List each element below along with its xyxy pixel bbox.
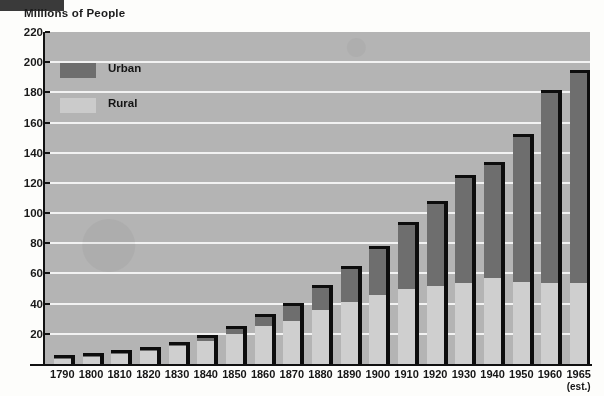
bar-shadow-top bbox=[255, 314, 276, 317]
bar-shadow bbox=[558, 91, 562, 364]
y-axis-tick-mark bbox=[45, 272, 50, 274]
x-axis-tick-label: 1800 bbox=[79, 368, 103, 380]
x-axis-tick-label: 1840 bbox=[194, 368, 218, 380]
bar-shadow-top bbox=[140, 347, 161, 350]
bar-segment-rural bbox=[484, 278, 501, 364]
x-axis-tick-label: 1940 bbox=[480, 368, 504, 380]
bar-group bbox=[427, 204, 444, 364]
x-axis-tick-label: 1900 bbox=[366, 368, 390, 380]
bar-segment-rural bbox=[283, 321, 300, 364]
y-axis-tick-mark bbox=[45, 333, 50, 335]
y-axis-tick-label: 160 bbox=[3, 117, 43, 129]
bar-group bbox=[283, 306, 300, 364]
y-axis-tick-label: 20 bbox=[3, 328, 43, 340]
x-axis-tick-label: 1910 bbox=[394, 368, 418, 380]
bar-shadow-top bbox=[455, 175, 476, 178]
y-axis-tick-mark bbox=[45, 182, 50, 184]
bar-group bbox=[570, 73, 587, 364]
x-axis-tick-label: 1960 bbox=[538, 368, 562, 380]
bar-segment-rural bbox=[455, 283, 472, 364]
y-axis-tick-labels: 22020018016014012010080604020 bbox=[0, 0, 43, 396]
bar-shadow-top bbox=[341, 266, 362, 269]
bar-shadow-top bbox=[484, 162, 505, 165]
plot-area bbox=[45, 32, 590, 364]
y-axis-tick-mark bbox=[45, 31, 50, 33]
bar-segment-urban bbox=[111, 353, 128, 354]
y-axis-tick-mark bbox=[45, 61, 50, 63]
bar-group bbox=[255, 317, 272, 364]
bar-segment-urban bbox=[484, 165, 501, 277]
bar-group bbox=[513, 137, 530, 364]
bar-group bbox=[197, 338, 214, 364]
bar-group bbox=[484, 165, 501, 364]
legend-swatch-urban-icon bbox=[60, 63, 96, 78]
bar-shadow bbox=[214, 336, 218, 364]
bar-shadow bbox=[501, 163, 505, 364]
bar-segment-rural bbox=[169, 346, 186, 364]
bar-segment-rural bbox=[312, 310, 329, 364]
y-axis-tick-mark bbox=[45, 91, 50, 93]
legend-label-rural: Rural bbox=[108, 97, 137, 109]
bar-group bbox=[369, 249, 386, 364]
bar-shadow-top bbox=[83, 353, 104, 356]
bar-shadow-top bbox=[54, 355, 75, 358]
bar-segment-urban bbox=[427, 204, 444, 286]
bar-segment-rural bbox=[513, 282, 530, 364]
x-axis-tick-label: 1965 bbox=[566, 368, 590, 380]
bar-shadow-top bbox=[513, 134, 534, 137]
bar-segment-rural bbox=[541, 283, 558, 364]
bar-shadow-top bbox=[541, 90, 562, 93]
bar-shadow bbox=[386, 247, 390, 364]
bar-group bbox=[226, 329, 243, 364]
x-axis-tick-label: 1890 bbox=[337, 368, 361, 380]
x-axis-tick-labels: 1790180018101820183018401850186018701880… bbox=[0, 368, 604, 396]
x-axis-tick-sublabel: (est.) bbox=[567, 381, 591, 392]
y-axis-tick-label: 120 bbox=[3, 177, 43, 189]
y-axis-tick-mark bbox=[45, 303, 50, 305]
y-axis-tick-mark bbox=[45, 242, 50, 244]
bar-group bbox=[169, 345, 186, 364]
bar-shadow-top bbox=[226, 326, 247, 329]
gridline bbox=[45, 272, 590, 274]
bar-segment-rural bbox=[369, 295, 386, 364]
bar-shadow-top bbox=[570, 70, 590, 73]
y-axis-tick-label: 180 bbox=[3, 86, 43, 98]
bar-shadow bbox=[157, 348, 161, 364]
y-axis-tick-label: 60 bbox=[3, 267, 43, 279]
x-axis-tick-label: 1810 bbox=[107, 368, 131, 380]
x-axis-tick-label: 1950 bbox=[509, 368, 533, 380]
bar-segment-rural bbox=[255, 326, 272, 364]
y-axis-line bbox=[43, 32, 45, 366]
bar-group bbox=[312, 288, 329, 364]
bar-shadow-top bbox=[312, 285, 333, 288]
y-axis-tick-mark bbox=[45, 122, 50, 124]
bar-segment-urban bbox=[226, 329, 243, 334]
x-axis-tick-label: 1860 bbox=[251, 368, 275, 380]
legend-label-urban: Urban bbox=[108, 62, 141, 74]
x-axis-tick-label: 1880 bbox=[308, 368, 332, 380]
bar-group bbox=[541, 93, 558, 364]
bar-shadow-top bbox=[398, 222, 419, 225]
bar-group bbox=[455, 178, 472, 364]
bar-shadow bbox=[415, 223, 419, 364]
bar-shadow-top bbox=[283, 303, 304, 306]
bar-segment-urban bbox=[513, 137, 530, 283]
x-axis-line bbox=[30, 364, 592, 366]
bar-group bbox=[140, 350, 157, 364]
gridline bbox=[45, 182, 590, 184]
bar-segment-urban bbox=[341, 269, 358, 302]
bar-segment-rural bbox=[427, 286, 444, 364]
x-axis-tick-label: 1790 bbox=[50, 368, 74, 380]
bar-segment-urban bbox=[255, 317, 272, 326]
bar-shadow-top bbox=[169, 342, 190, 345]
bar-shadow bbox=[530, 135, 534, 364]
y-axis-tick-label: 100 bbox=[3, 207, 43, 219]
y-axis-tick-label: 80 bbox=[3, 237, 43, 249]
bar-segment-urban bbox=[541, 93, 558, 282]
x-axis-tick-label: 1820 bbox=[136, 368, 160, 380]
gridline bbox=[45, 91, 590, 93]
bar-shadow bbox=[300, 304, 304, 364]
y-axis-tick-mark bbox=[45, 212, 50, 214]
bar-shadow bbox=[444, 202, 448, 364]
bar-segment-rural bbox=[398, 289, 415, 364]
